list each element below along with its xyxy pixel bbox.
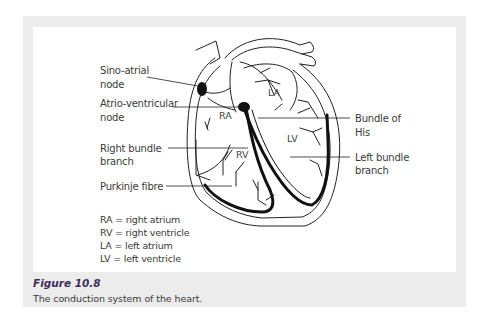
label-atrio-ventricular: Atrio-ventricular [100,97,178,110]
legend-item-rv: RV = right ventricle [100,226,189,239]
chamber-label-la: LA [268,87,280,98]
chamber-label-lv: LV [287,133,298,144]
label-right-bundle: Right bundle [100,142,161,155]
label-sino-atrial: Sino-atrial [100,64,149,77]
sa-node [197,82,207,96]
abbreviation-legend: RA = right atrium RV = right ventricle L… [100,213,189,265]
label-right-bundle-branch: branch [100,155,134,168]
chamber-label-rv: RV [236,149,249,160]
vena-cava [196,41,220,64]
label-atrio-ventricular-node: node [100,111,124,124]
label-sino-atrial-node: node [100,78,124,91]
chamber-label-ra: RA [219,110,232,121]
label-left-bundle: Left bundle [355,151,409,164]
legend-item-ra: RA = right atrium [100,213,189,226]
legend-item-lv: LV = left ventricle [100,252,189,265]
figure-number: Figure 10.8 [33,277,101,289]
label-left-bundle-branch: branch [355,164,389,177]
label-bundle-his: His [355,126,370,139]
label-bundle-of-his: Bundle of [355,112,401,125]
figure-caption: The conduction system of the heart. [33,293,202,304]
legend-item-la: LA = left atrium [100,239,189,252]
label-purkinje: Purkinje fibre [100,180,163,193]
